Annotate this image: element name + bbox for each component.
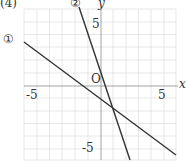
line-2-label: ② <box>70 0 81 9</box>
x-tick-5: 5 <box>158 89 166 101</box>
x-axis-label: x <box>179 78 186 90</box>
y-tick-5: 5 <box>92 18 100 30</box>
line-2 <box>79 7 130 160</box>
y-axis-label: y <box>98 0 105 9</box>
y-tick-neg5: -5 <box>82 142 94 154</box>
line-1 <box>24 42 176 155</box>
origin-label: O <box>91 73 101 85</box>
line-1-label: ① <box>3 33 14 45</box>
problem-label: (4) <box>0 0 17 9</box>
x-tick-neg5: -5 <box>26 89 38 101</box>
axes <box>24 7 178 160</box>
